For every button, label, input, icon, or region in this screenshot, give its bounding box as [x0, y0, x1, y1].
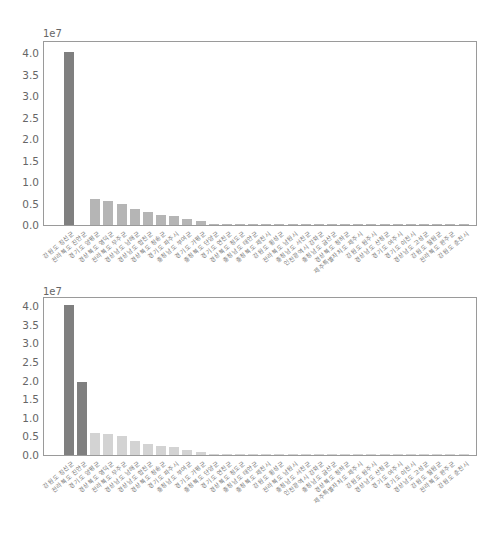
- bar: [182, 450, 192, 455]
- bar: [196, 452, 206, 455]
- plot-area: [43, 297, 477, 456]
- bar: [117, 436, 127, 455]
- bar: [130, 441, 140, 455]
- y-tick-label: 0.5: [0, 430, 39, 442]
- y-tick-label: 1.0: [0, 412, 39, 424]
- bar: [90, 433, 100, 455]
- y-tick-label: 1.5: [0, 393, 39, 405]
- bar: [432, 454, 442, 455]
- bar: [209, 454, 219, 455]
- bar: [380, 454, 390, 455]
- bar: [77, 382, 87, 455]
- bar: [301, 454, 311, 455]
- y-tick-label: 2.5: [0, 356, 39, 368]
- bar: [314, 454, 324, 455]
- y-tick-label: 2.0: [0, 375, 39, 387]
- bar: [327, 454, 337, 455]
- bar: [156, 446, 166, 455]
- bar: [222, 454, 232, 455]
- y-tick-label: 4.0: [0, 300, 39, 312]
- bar: [445, 454, 455, 455]
- bar: [274, 454, 284, 455]
- bar: [169, 447, 179, 455]
- bar: [419, 454, 429, 455]
- bar: [261, 454, 271, 455]
- bar: [288, 454, 298, 455]
- bar: [64, 305, 74, 455]
- bar: [393, 454, 403, 455]
- bar: [235, 454, 245, 455]
- y-scale-label: 1e7: [43, 286, 62, 297]
- bar: [459, 454, 469, 455]
- bar: [353, 454, 363, 455]
- y-tick-label: 3.5: [0, 319, 39, 331]
- bar: [143, 444, 153, 455]
- bar: [248, 454, 258, 455]
- y-tick-label: 3.0: [0, 337, 39, 349]
- bottom-bar-chart: 1e7 0.00.51.01.52.02.53.03.54.0강원도 정선군전라…: [0, 0, 499, 545]
- bar: [340, 454, 350, 455]
- y-tick-label: 0.0: [0, 449, 39, 461]
- bar: [366, 454, 376, 455]
- bar: [103, 434, 113, 455]
- bar: [406, 454, 416, 455]
